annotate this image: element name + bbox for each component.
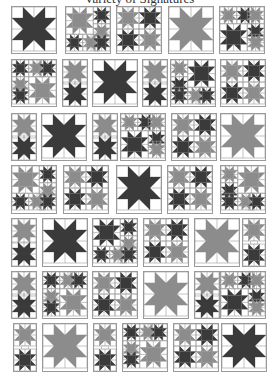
quilt-block (220, 7, 264, 53)
quilt-block (14, 324, 36, 371)
quilt-block (117, 7, 161, 53)
star-block-icon (117, 7, 161, 53)
quilt-block (172, 114, 216, 160)
quilt-block (93, 272, 137, 318)
star-block-icon (12, 7, 56, 53)
quilt-block (93, 114, 117, 160)
quilt-block (221, 114, 265, 160)
quilt-block (174, 324, 218, 371)
star-block-icon (43, 219, 87, 266)
quilt-block (144, 219, 188, 266)
star-block-icon (195, 272, 219, 318)
star-block-icon (172, 114, 216, 160)
quilt-block (221, 60, 265, 106)
star-block-icon (12, 219, 36, 266)
star-block-icon (221, 114, 265, 160)
star-block-icon (143, 60, 167, 106)
quilt-block (12, 272, 36, 318)
quilt-block (43, 219, 87, 266)
star-block-icon (42, 114, 86, 160)
star-block-icon (43, 272, 87, 318)
quilt-block (42, 114, 86, 160)
quilt-block (195, 219, 239, 266)
quilt-block (144, 272, 188, 318)
quilt-block (12, 114, 36, 160)
star-block-icon (64, 166, 108, 213)
star-block-icon (66, 7, 110, 53)
star-block-icon (63, 60, 87, 106)
page-title: Variety of Signatures (0, 0, 279, 7)
quilt-block (64, 166, 108, 213)
star-block-icon (221, 166, 265, 213)
star-block-icon (93, 272, 137, 318)
star-block-icon (12, 114, 36, 160)
star-block-icon (168, 166, 212, 213)
quilt-block (121, 114, 165, 160)
star-block-icon (221, 272, 265, 318)
star-block-icon (12, 166, 56, 213)
star-block-icon (174, 324, 218, 371)
star-block-icon (94, 324, 116, 371)
star-block-icon (222, 324, 266, 371)
quilt-block (143, 60, 167, 106)
star-block-icon (14, 324, 36, 371)
star-block-icon (93, 219, 137, 266)
quilt-block (12, 219, 36, 266)
quilt-block (63, 60, 87, 106)
quilt-block (168, 166, 212, 213)
quilt-block (43, 324, 87, 371)
star-block-icon (43, 324, 87, 371)
star-block-icon (169, 7, 213, 53)
quilt-block (43, 272, 87, 318)
quilt-block (12, 7, 56, 53)
star-block-icon (220, 7, 264, 53)
star-block-icon (243, 219, 265, 266)
quilt-block (195, 272, 219, 318)
star-block-icon (117, 166, 161, 213)
quilt-block (93, 60, 137, 106)
star-block-icon (123, 324, 167, 371)
quilt-block (171, 60, 215, 106)
quilt-block (123, 324, 167, 371)
star-block-icon (171, 60, 215, 106)
quilt-block (222, 324, 266, 371)
quilt-block (93, 219, 137, 266)
star-block-icon (221, 60, 265, 106)
quilt-block (117, 166, 161, 213)
star-block-icon (93, 114, 117, 160)
quilt-block (66, 7, 110, 53)
star-block-icon (93, 60, 137, 106)
quilt-block (12, 60, 56, 106)
quilt-block (221, 166, 265, 213)
star-block-icon (12, 60, 56, 106)
star-block-icon (121, 114, 165, 160)
star-block-icon (12, 272, 36, 318)
star-block-icon (195, 219, 239, 266)
quilt-block (94, 324, 116, 371)
quilt-block (12, 166, 56, 213)
quilt-block (169, 7, 213, 53)
star-block-icon (144, 219, 188, 266)
quilt-block (243, 219, 265, 266)
quilt-block (221, 272, 265, 318)
star-block-icon (144, 272, 188, 318)
